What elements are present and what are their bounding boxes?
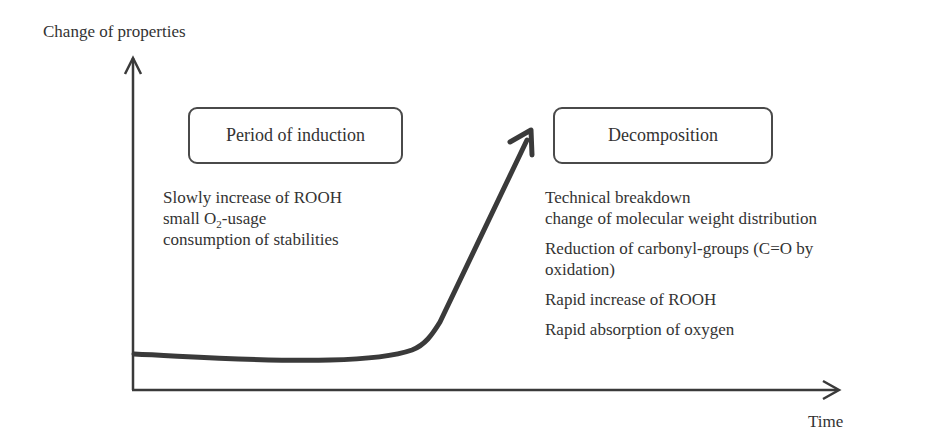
- stage-label-induction: Period of induction: [226, 125, 365, 146]
- induction-note-o2: small O2-usage: [163, 208, 342, 229]
- decomposition-notes: Technical breakdown change of molecular …: [545, 187, 817, 340]
- decomposition-note: oxidation): [545, 259, 817, 280]
- y-axis: [125, 58, 141, 390]
- y-axis-label: Change of properties: [43, 21, 186, 42]
- stage-label-decomposition: Decomposition: [608, 125, 718, 146]
- stage-box-induction: Period of induction: [188, 107, 403, 164]
- stage-box-decomposition: Decomposition: [553, 107, 773, 164]
- decomposition-note: change of molecular weight distribution: [545, 208, 817, 229]
- diagram-canvas: Change of properties Time Period of indu…: [0, 0, 932, 446]
- x-axis: [132, 381, 839, 399]
- x-axis-label: Time: [808, 411, 843, 432]
- induction-note: Slowly increase of ROOH: [163, 187, 342, 208]
- decomposition-note: Rapid absorption of oxygen: [545, 319, 817, 340]
- induction-note: consumption of stabilities: [163, 229, 342, 250]
- decomposition-note: Reduction of carbonyl-groups (C=O by: [545, 238, 817, 259]
- induction-notes: Slowly increase of ROOH small O2-usage c…: [163, 187, 342, 250]
- decomposition-note: Technical breakdown: [545, 187, 817, 208]
- decomposition-note: Rapid increase of ROOH: [545, 289, 817, 310]
